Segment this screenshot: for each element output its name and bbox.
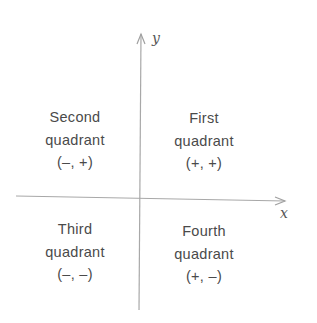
quadrant-word: quadrant	[20, 241, 130, 264]
quadrant-name: Fourth	[149, 220, 259, 243]
x-axis-label: x	[280, 205, 288, 221]
quadrant-signs: (–, +)	[20, 151, 130, 174]
quadrant-signs: (+, +)	[149, 152, 259, 175]
quadrant-name: Third	[20, 218, 130, 241]
quadrant-name: Second	[20, 106, 130, 129]
x-axis-line	[16, 196, 285, 201]
second-quadrant-label: Second quadrant (–, +)	[20, 106, 130, 174]
third-quadrant-label: Third quadrant (–, –)	[20, 218, 130, 286]
quadrant-name: First	[149, 107, 259, 130]
quadrant-word: quadrant	[149, 243, 259, 266]
quadrant-word: quadrant	[20, 129, 130, 152]
quadrant-word: quadrant	[149, 130, 259, 153]
quadrant-signs: (+, –)	[149, 265, 259, 288]
y-axis-label: y	[152, 30, 160, 46]
fourth-quadrant-label: Fourth quadrant (+, –)	[149, 220, 259, 288]
y-axis-line	[139, 34, 141, 310]
quadrant-signs: (–, –)	[20, 263, 130, 286]
first-quadrant-label: First quadrant (+, +)	[149, 107, 259, 175]
